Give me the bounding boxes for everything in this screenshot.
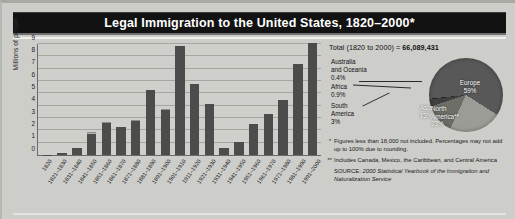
page-title: Legal Immigration to the United States, … [104, 16, 414, 30]
bar [205, 104, 214, 155]
pie-label-oceania-line1: Australia [331, 58, 383, 66]
bar [87, 132, 96, 155]
bar-group [69, 44, 84, 155]
bar-group [158, 44, 173, 155]
bar-segment-main [308, 43, 317, 155]
pie-chart-area: Europe 59% North America** 23% Asia 13% … [329, 57, 509, 135]
source-label: SOURCE: [334, 168, 361, 174]
pie-slice-europe-pct: 59% [453, 87, 487, 95]
footnote-2: ** Includes Canada, Mexico, the Caribbea… [329, 157, 507, 165]
footnotes: * Figures less than 18,000 not included.… [329, 138, 507, 184]
pie-label-south-america-line1: South [331, 102, 377, 110]
pie-slice-asia-label: Asia [415, 104, 437, 112]
y-axis-tick: 9 [31, 35, 35, 41]
bar-group [128, 44, 143, 155]
pie-label-south-america-line2: America [331, 110, 377, 118]
summary-panel: Total (1820 to 2000) = 66,089,431 Europe… [329, 43, 509, 215]
bar-segment-main [102, 123, 111, 155]
bottom-divider [13, 213, 506, 215]
pie-label-oceania: Australia and Oceania 0.4% [331, 58, 383, 82]
leader-line-oceania [359, 81, 422, 82]
pie-label-africa-pct: 0.9% [331, 91, 377, 99]
y-axis-tick: 7 [31, 59, 35, 65]
bar-group [99, 44, 114, 155]
bar-segment-main [116, 127, 125, 155]
y-axis-tick: 1 [31, 133, 35, 139]
footnote-1: * Figures less than 18,000 not included.… [329, 138, 507, 154]
bar [249, 124, 258, 155]
bar [308, 43, 317, 155]
bar [72, 148, 81, 155]
y-axis-tick: 6 [31, 72, 35, 78]
bar [278, 100, 287, 155]
bar [264, 114, 273, 155]
bar-segment-main [146, 90, 155, 155]
bar-segment-main [205, 104, 214, 155]
y-axis-tick: 2 [31, 121, 35, 127]
y-axis-tick: 4 [31, 96, 35, 102]
bar-group [84, 44, 99, 155]
footnote-2-text: Includes Canada, Mexico, the Caribbean, … [334, 157, 497, 163]
bar [131, 120, 140, 155]
pie-slice-europe: Europe 59% [453, 79, 487, 94]
bar [161, 109, 170, 155]
plot-area: 0123456789 [37, 44, 321, 156]
bar-group [187, 44, 202, 155]
x-axis-tick: 1820 [40, 158, 52, 172]
bar [116, 127, 125, 155]
bar-group [232, 44, 247, 155]
bar-group [114, 44, 129, 155]
bar-segment-main [72, 148, 81, 155]
pie-slice-asia: Asia 13% [415, 104, 437, 119]
pie-slice-north-america-pct: 23% [431, 120, 467, 128]
y-axis-tick: 8 [31, 47, 35, 53]
bar-segment-main [234, 142, 243, 155]
footnote-2-marker: ** [328, 157, 332, 164]
footnote-1-text: Figures less than 18,000 not included. P… [334, 138, 502, 152]
bar-segment-main [264, 114, 273, 155]
bar-segment-main [175, 46, 184, 155]
total-value: 66,089,431 [402, 43, 438, 52]
bar-segment-main [278, 100, 287, 155]
source-note: SOURCE: 2000 Statistical Yearbook of the… [329, 168, 507, 184]
x-axis-labels: 18201821–18301831–18401841–18501851–1860… [37, 158, 321, 212]
bar-segment-main [87, 134, 96, 155]
y-axis-tick: 5 [31, 84, 35, 90]
y-axis-tick: 3 [31, 109, 35, 115]
bar-group [40, 44, 55, 155]
chart-title-bar: Legal Immigration to the United States, … [13, 12, 506, 35]
bar [102, 122, 111, 155]
title-divider [13, 37, 506, 39]
bar-chart-panel: Millions of people 0123456789 18201821–1… [13, 42, 325, 214]
bar-group [246, 44, 261, 155]
pie-slice-europe-label: Europe [453, 79, 487, 87]
infographic-frame: Legal Immigration to the United States, … [0, 0, 515, 219]
bar-segment-main [293, 64, 302, 155]
bar-group [276, 44, 291, 155]
bar-group [261, 44, 276, 155]
bar-group [202, 44, 217, 155]
pie-label-oceania-line2: and Oceania [331, 66, 383, 74]
bar [234, 142, 243, 155]
bar-group [290, 44, 305, 155]
bar-segment-main [131, 121, 140, 155]
bar-segment-main [249, 124, 258, 155]
footnote-1-marker: * [329, 138, 331, 145]
y-axis-label: Millions of people [12, 4, 19, 84]
y-axis-tick: 0 [31, 146, 35, 152]
bar-segment-main [57, 153, 66, 155]
pie-label-south-america: South America 3% [331, 102, 377, 126]
bar [175, 46, 184, 155]
bar-series [38, 44, 321, 155]
bar-segment-main [161, 110, 170, 155]
bar-group [55, 44, 70, 155]
bar-segment-main [190, 84, 199, 155]
bar-group [305, 44, 320, 155]
bar-group [217, 44, 232, 155]
pie-slice-asia-pct: 13% [415, 112, 437, 120]
pie-label-south-america-pct: 3% [331, 118, 377, 126]
bar-group [173, 44, 188, 155]
bar [146, 90, 155, 155]
total-label: Total (1820 to 2000) = [329, 43, 400, 52]
total-immigration-text: Total (1820 to 2000) = 66,089,431 [329, 43, 509, 52]
